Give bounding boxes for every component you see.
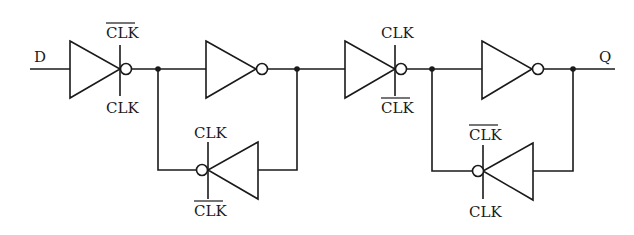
clk-bar-label: CLK	[381, 99, 414, 117]
output-q-label: Q	[599, 48, 611, 66]
output-q: Q	[544, 48, 616, 72]
d-flip-flop-diagram: D CLK CLK CLK CLK CLK CLK	[0, 0, 634, 235]
clk-bar-label: CLK	[106, 24, 139, 42]
clk-label: CLK	[106, 99, 139, 117]
clk-label: CLK	[194, 124, 227, 142]
clocked-inverter-4: CLK CLK	[345, 24, 414, 117]
input-d: D	[30, 48, 70, 69]
feedback-loop-1: CLK CLK	[158, 69, 297, 220]
clk-bar-label: CLK	[469, 126, 502, 144]
clk-label: CLK	[381, 24, 414, 42]
inverter-2	[206, 41, 268, 98]
clk-bar-label: CLK	[194, 202, 227, 220]
clocked-inverter-1: CLK CLK	[70, 23, 139, 117]
clk-label: CLK	[469, 203, 502, 221]
inverter-5	[482, 41, 544, 99]
feedback-loop-2: CLK CLK	[432, 69, 573, 221]
input-d-label: D	[34, 48, 46, 66]
